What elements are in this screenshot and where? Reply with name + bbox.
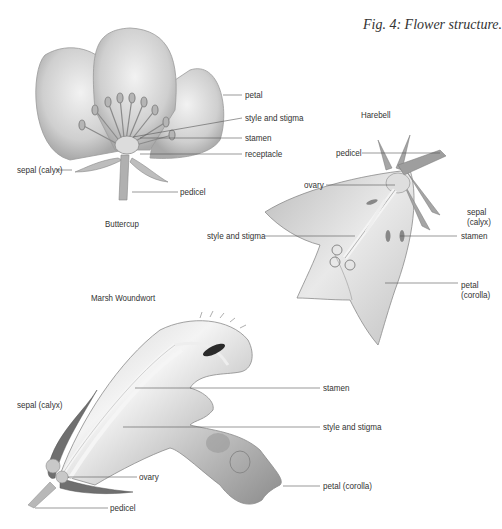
harebell-title: Harebell <box>361 110 391 120</box>
harebell-label-style-and-stigma: style and stigma <box>207 231 266 241</box>
buttercup-label-sepal: sepal (calyx) <box>17 165 62 175</box>
buttercup-label-petal: petal <box>245 90 263 100</box>
woundwort-label-stamen: stamen <box>323 383 350 393</box>
buttercup-title: Buttercup <box>105 219 139 229</box>
buttercup-label-stamen: stamen <box>245 133 272 143</box>
harebell-label-petal-line2: (corolla) <box>461 290 490 300</box>
woundwort-label-ovary: ovary <box>139 472 159 482</box>
woundwort-label-style-and-stigma: style and stigma <box>323 422 382 432</box>
harebell-label-sepal-line2: (calyx) <box>467 217 491 227</box>
harebell-label-stamen: stamen <box>461 231 488 241</box>
harebell-label-sepal: sepal (calyx) <box>467 207 491 227</box>
woundwort-label-petal: petal (corolla) <box>323 481 372 491</box>
harebell-label-pedicel: pedicel <box>336 148 362 158</box>
marsh-woundwort-title: Marsh Woundwort <box>91 293 155 303</box>
harebell-label-ovary: ovary <box>304 180 324 190</box>
buttercup-label-style-and-stigma: style and stigma <box>245 113 304 123</box>
buttercup-illustration <box>36 28 224 200</box>
buttercup-label-pedicel: pedicel <box>180 187 206 197</box>
woundwort-label-sepal: sepal (calyx) <box>17 400 62 410</box>
harebell-illustration <box>265 135 446 345</box>
harebell-label-sepal-line1: sepal <box>467 207 491 217</box>
woundwort-label-pedicel: pedicel <box>110 503 136 513</box>
harebell-label-petal: petal (corolla) <box>461 280 490 300</box>
harebell-label-petal-line1: petal <box>461 280 490 290</box>
buttercup-label-receptacle: receptacle <box>245 149 282 159</box>
